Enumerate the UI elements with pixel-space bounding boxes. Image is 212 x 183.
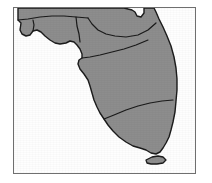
map-frame-border [13, 7, 196, 174]
florida-map-graphic [13, 7, 196, 174]
florida-keys-shape [146, 156, 166, 164]
florida-map-figure [0, 0, 212, 183]
